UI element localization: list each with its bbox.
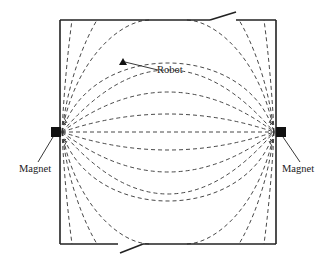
field-line xyxy=(62,20,72,132)
field-line xyxy=(62,132,274,201)
diagram-canvas xyxy=(0,0,333,267)
field-line xyxy=(62,114,274,132)
magnet-left-label: Magnet xyxy=(19,164,51,175)
field-line xyxy=(239,20,274,132)
field-line xyxy=(186,132,274,244)
magnet-left-leader xyxy=(38,137,53,162)
magnet-right-label: Magnet xyxy=(282,164,314,175)
field-line xyxy=(239,132,274,244)
field-line xyxy=(62,132,97,244)
field-line xyxy=(62,92,274,132)
robot-icon xyxy=(119,58,127,65)
field-line xyxy=(62,132,274,150)
door-top xyxy=(210,12,236,20)
field-line xyxy=(62,132,274,172)
magnetic-field-diagram: Robot Magnet Magnet xyxy=(0,0,333,267)
magnet-right-leader xyxy=(283,137,300,162)
field-line xyxy=(264,20,274,132)
field-line xyxy=(62,132,150,244)
field-line xyxy=(62,20,150,132)
door-bottom xyxy=(120,244,143,253)
field-line xyxy=(62,20,97,132)
magnet-left-icon xyxy=(51,127,61,137)
field-line xyxy=(62,132,72,244)
field-line xyxy=(186,20,274,132)
field-line xyxy=(264,132,274,244)
field-lines xyxy=(62,20,274,244)
magnet-right-icon xyxy=(276,127,286,137)
robot-label: Robot xyxy=(157,65,183,76)
robot-leader xyxy=(125,62,158,70)
